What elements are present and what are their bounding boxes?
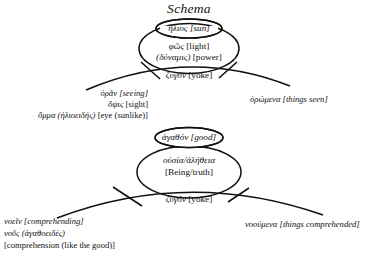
lower-left-english-0: [comprehending]	[24, 216, 84, 226]
lower-outer-ellipse-label-line2: [Being/truth]	[129, 167, 249, 178]
upper-inner-english: [sun]	[190, 23, 210, 33]
upper-outer-ellipse-label-line1: φῶς [light]	[134, 41, 244, 52]
upper-outer-ellipse-label-line2: (δύναμις) [power]	[134, 52, 244, 63]
lower-right-label: νοούμενα [things comprehended]	[245, 219, 360, 229]
lower-yoke-english: [yoke]	[188, 194, 212, 204]
upper-left-greek-2: ὄμμα (ἡλιοειδής)	[38, 110, 96, 120]
lower-yoke-label: ζυγόν [yoke]	[139, 194, 239, 205]
lower-outer-english-2: [Being/truth]	[165, 167, 213, 177]
upper-left-english-2: [eye (sunlike)]	[98, 110, 148, 120]
upper-outer-english-2: [power]	[193, 52, 222, 62]
upper-left-english-1: [sight]	[126, 99, 148, 109]
upper-outer-greek-2: (δύναμις)	[156, 52, 190, 62]
upper-outer-greek-1: φῶς	[169, 41, 184, 51]
upper-right-english: [things seen]	[283, 94, 328, 104]
lower-left-english-2: [comprehension (like the good)]	[4, 240, 115, 250]
lower-outer-greek-1: οὐσία/ἀλήθεια	[163, 155, 215, 165]
upper-outer-english-1: [light]	[186, 41, 209, 51]
lower-left-greek-0: νοεῖν	[4, 216, 22, 226]
lower-inner-ellipse-label: ἀγαθόν [good]	[139, 132, 239, 143]
upper-inner-ellipse-label: ἥλιος [sun]	[139, 23, 239, 34]
lower-left-greek-1: νοῦς (ἀγαθοειδές)	[4, 228, 65, 238]
upper-yoke-english: [yoke]	[188, 70, 212, 80]
lower-yoke-greek: ζυγόν	[166, 194, 186, 204]
lower-inner-greek: ἀγαθόν	[162, 132, 188, 142]
page-title: Schema	[0, 1, 378, 17]
upper-left-label-0: ὁρᾶν [seeing]	[0, 88, 148, 98]
schema-diagram-page: Schema ἥλιος [sun] φῶς [light] (δύναμις)…	[0, 0, 378, 258]
lower-left-label-1: νοῦς (ἀγαθοειδές)	[4, 228, 65, 238]
upper-left-label-2: ὄμμα (ἡλιοειδής) [eye (sunlike)]	[0, 110, 148, 120]
lower-right-english: [things comprehended]	[280, 219, 360, 229]
upper-right-greek: ὁρώμενα	[250, 94, 280, 104]
lower-outer-ellipse-label-line1: οὐσία/ἀλήθεια	[129, 155, 249, 166]
upper-yoke-greek: ζυγόν	[166, 70, 186, 80]
lower-right-greek: νοούμενα	[245, 219, 277, 229]
upper-left-greek-0: ὁρᾶν	[100, 88, 117, 98]
upper-right-label: ὁρώμενα [things seen]	[250, 94, 328, 104]
lower-inner-english: [good]	[191, 132, 217, 142]
upper-left-english-0: [seeing]	[119, 88, 148, 98]
upper-inner-greek: ἥλιος	[168, 23, 187, 33]
upper-left-label-1: ὄψις [sight]	[0, 99, 148, 109]
lower-left-label-0: νοεῖν [comprehending]	[4, 216, 84, 226]
upper-yoke-label: ζυγόν [yoke]	[139, 70, 239, 81]
upper-left-greek-1: ὄψις	[108, 99, 124, 109]
lower-left-label-2: [comprehension (like the good)]	[4, 240, 115, 250]
